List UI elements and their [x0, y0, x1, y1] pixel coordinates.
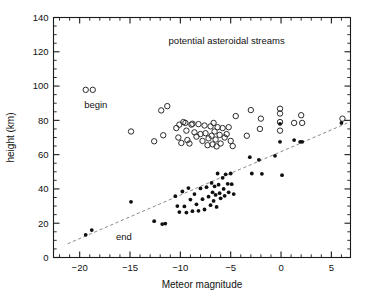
data-point-filled: [214, 193, 218, 197]
y-axis-title: height (km): [5, 112, 16, 162]
data-point-filled: [191, 209, 195, 213]
data-point-filled: [215, 205, 219, 209]
data-point-filled: [173, 194, 177, 198]
data-point-filled: [212, 199, 216, 203]
y-tick-label: 80: [38, 115, 49, 126]
data-point-filled: [226, 182, 230, 186]
data-point-filled: [187, 186, 191, 190]
data-point-filled: [211, 190, 215, 194]
data-point-filled: [203, 208, 207, 212]
data-point-filled: [340, 121, 344, 125]
annotation-label: potential asteroidal streams: [169, 35, 285, 46]
data-point-filled: [224, 172, 228, 176]
y-tick-label: 120: [33, 46, 49, 57]
x-tick-label: −10: [172, 262, 188, 273]
x-tick-label: −20: [72, 262, 88, 273]
data-point-filled: [201, 197, 205, 201]
y-tick-label: 0: [43, 252, 48, 263]
data-point-filled: [184, 211, 188, 215]
data-point-filled: [177, 210, 181, 214]
x-tick-label: 5: [329, 262, 334, 273]
x-tick-label: −5: [225, 262, 236, 273]
data-point-filled: [84, 233, 88, 237]
x-tick-label: −15: [122, 262, 138, 273]
data-point-filled: [280, 173, 284, 177]
data-point-filled: [210, 181, 214, 185]
data-point-filled: [250, 172, 254, 176]
data-point-filled: [213, 184, 217, 188]
data-point-filled: [219, 196, 223, 200]
data-point-filled: [209, 203, 213, 207]
y-tick-label: 40: [38, 183, 49, 194]
data-point-filled: [278, 122, 282, 126]
data-point-filled: [182, 205, 186, 209]
data-point-filled: [152, 219, 156, 223]
data-point-filled: [248, 155, 252, 159]
data-point-filled: [199, 187, 203, 191]
annotation-label: begin: [84, 99, 107, 110]
chart-figure: −20−15−10−505020406080100120140Meteor ma…: [0, 0, 365, 300]
data-point-filled: [230, 182, 234, 186]
y-tick-label: 60: [38, 149, 49, 160]
data-point-filled: [197, 209, 201, 213]
annotation-label: end: [116, 231, 132, 242]
y-tick-label: 140: [33, 12, 49, 23]
data-point-filled: [227, 190, 231, 194]
data-point-filled: [195, 202, 199, 206]
data-point-filled: [229, 172, 233, 176]
x-axis-title: Meteor magnitude: [162, 279, 243, 290]
data-point-filled: [129, 200, 133, 204]
scatter-plot-svg: −20−15−10−505020406080100120140Meteor ma…: [0, 0, 365, 300]
data-point-filled: [90, 228, 94, 232]
data-point-filled: [300, 140, 304, 144]
data-point-filled: [222, 187, 226, 191]
data-point-filled: [223, 194, 227, 198]
data-point-filled: [175, 204, 179, 208]
data-point-filled: [278, 140, 282, 144]
x-tick-label: 0: [278, 262, 283, 273]
data-point-filled: [232, 192, 236, 196]
data-point-filled: [193, 192, 197, 196]
y-tick-label: 20: [38, 218, 49, 229]
data-point-filled: [273, 154, 277, 158]
data-point-filled: [218, 191, 222, 195]
data-point-filled: [221, 176, 225, 180]
data-point-filled: [163, 222, 167, 226]
data-point-filled: [205, 185, 209, 189]
data-point-filled: [257, 158, 261, 162]
data-point-filled: [189, 198, 193, 202]
data-point-filled: [216, 172, 220, 176]
data-point-filled: [260, 172, 264, 176]
data-point-filled: [217, 183, 221, 187]
data-point-filled: [180, 190, 184, 194]
y-tick-label: 100: [33, 80, 49, 91]
data-point-filled: [292, 138, 296, 142]
data-point-filled: [207, 195, 211, 199]
